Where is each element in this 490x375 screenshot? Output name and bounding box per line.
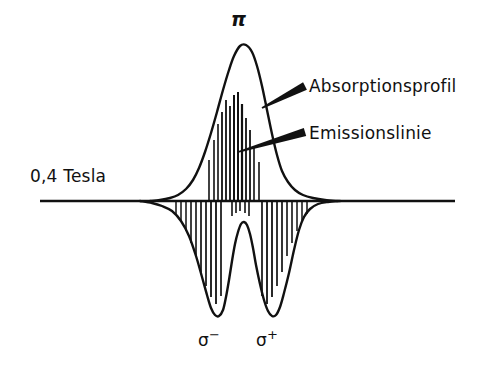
field-strength-label: 0,4 Tesla [30, 166, 106, 186]
emission-lines-lower-center [232, 201, 249, 216]
callout-leader-lines [238, 82, 307, 153]
sigma-plus-sign: + [267, 327, 278, 342]
zeeman-effect-figure: 0,4 Tesla Absorptionsprofil Emissionslin… [0, 0, 490, 375]
sigma-plus-label: σ+ [256, 330, 278, 350]
sigma-dispersion-curve [140, 201, 340, 316]
sigma-minus-base: σ [198, 330, 209, 350]
pi-component-label: π [231, 8, 246, 30]
absorption-profile-label: Absorptionsprofil [309, 76, 457, 96]
emission-line-label: Emissionslinie [309, 123, 432, 143]
sigma-minus-label: σ− [198, 330, 220, 350]
figure-canvas [0, 0, 490, 375]
emission-lines-lower-left [176, 201, 221, 304]
sigma-plus-base: σ [256, 330, 267, 350]
sigma-minus-sign: − [209, 327, 220, 342]
callout-leader-absorption_profile [262, 82, 307, 109]
